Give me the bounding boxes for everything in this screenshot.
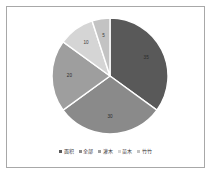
legend-item-label: 面积 (64, 148, 74, 154)
pie-slice-value-label: 30 (107, 114, 113, 119)
legend-swatch-icon (118, 150, 121, 153)
legend-item-label: 全部 (83, 148, 93, 154)
pie-slice-value-label: 5 (102, 33, 105, 38)
plot-area: 353020105 面积全部灌木苗木竹竹 (7, 7, 204, 167)
legend-swatch-icon (79, 150, 82, 153)
legend-item[interactable]: 灌木 (98, 148, 113, 154)
pie-slice-value-label: 35 (144, 55, 150, 60)
pie-slice-value-label: 10 (84, 40, 90, 45)
chart-legend: 面积全部灌木苗木竹竹 (7, 143, 204, 159)
pie-chart: 353020105 (51, 15, 169, 137)
legend-swatch-icon (137, 150, 140, 153)
legend-item-label: 竹竹 (142, 148, 152, 154)
legend-item[interactable]: 面积 (59, 148, 74, 154)
legend-swatch-icon (98, 150, 101, 153)
legend-swatch-icon (59, 150, 62, 153)
pie-svg: 353020105 (51, 15, 169, 137)
legend-item[interactable]: 苗木 (118, 148, 133, 154)
pie-slice-value-label: 20 (67, 73, 73, 78)
legend-item-label: 灌木 (103, 148, 113, 154)
legend-item[interactable]: 竹竹 (137, 148, 152, 154)
legend-item-label: 苗木 (122, 148, 132, 154)
legend-item[interactable]: 全部 (79, 148, 94, 154)
chart-frame: 353020105 面积全部灌木苗木竹竹 (6, 6, 205, 168)
